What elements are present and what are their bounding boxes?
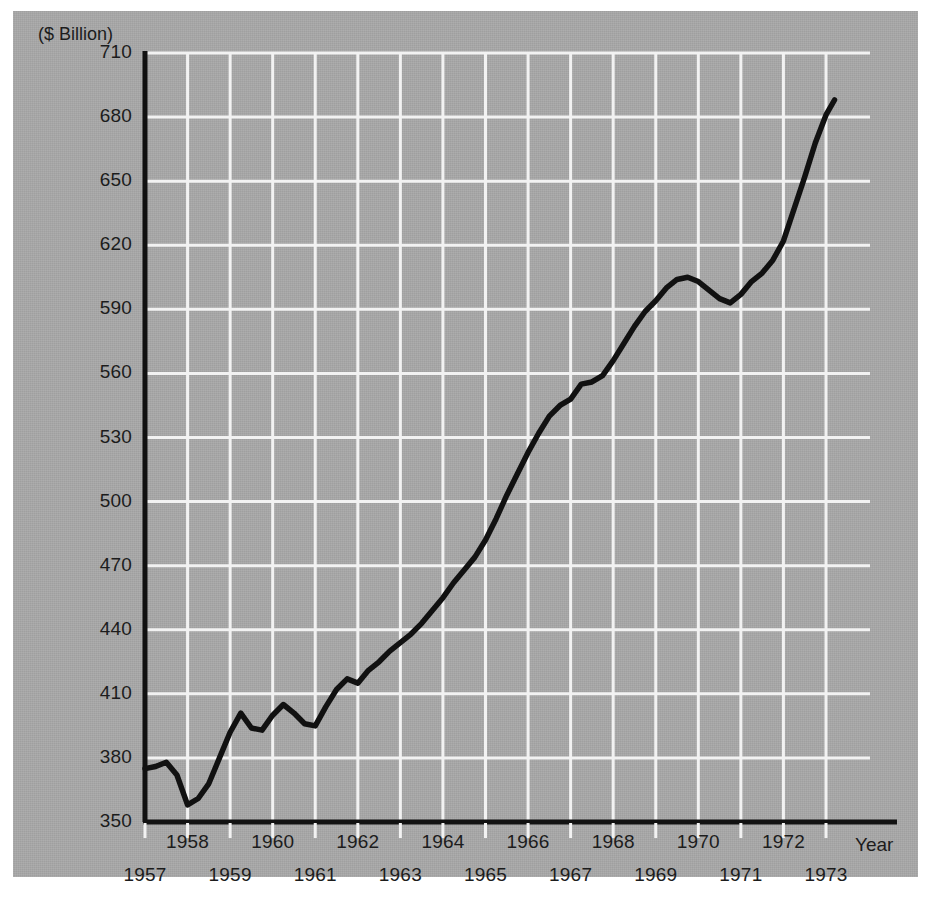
x-axis-tick-label: 1963 — [365, 864, 435, 886]
y-axis-tick-label: 680 — [62, 105, 132, 127]
x-axis-tick-label: 1971 — [706, 864, 776, 886]
chart-figure: ($ Billion) 3503804104404705005305605906… — [0, 0, 931, 898]
chart-plot-svg — [0, 0, 931, 898]
y-axis-tick-label: 500 — [62, 490, 132, 512]
x-axis-tick-label: 1967 — [536, 864, 606, 886]
x-axis-tick-label: 1962 — [323, 831, 393, 853]
x-axis-tick-label: 1966 — [493, 831, 563, 853]
x-axis-tick-label: 1972 — [748, 831, 818, 853]
y-axis-tick-label: 650 — [62, 169, 132, 191]
data-series-line — [145, 100, 835, 805]
y-axis-tick-label: 410 — [62, 682, 132, 704]
x-axis-tick-label: 1970 — [663, 831, 733, 853]
x-axis-title: Year — [855, 834, 893, 856]
x-axis-tick-label: 1964 — [408, 831, 478, 853]
y-axis-tick-label: 590 — [62, 297, 132, 319]
y-axis-tick-label: 350 — [62, 810, 132, 832]
x-axis-tick-label: 1957 — [110, 864, 180, 886]
y-axis-tick-label: 440 — [62, 618, 132, 640]
y-axis-tick-label: 380 — [62, 746, 132, 768]
x-axis-tick-label: 1973 — [791, 864, 861, 886]
x-axis-tick-label: 1958 — [153, 831, 223, 853]
x-axis-tick-label: 1968 — [578, 831, 648, 853]
x-axis-tick-label: 1960 — [238, 831, 308, 853]
y-axis-tick-label: 530 — [62, 426, 132, 448]
x-axis-tick-label: 1965 — [451, 864, 521, 886]
y-axis-tick-label: 710 — [62, 41, 132, 63]
y-axis-tick-label: 620 — [62, 233, 132, 255]
y-axis-tick-label: 560 — [62, 361, 132, 383]
gridlines-group — [145, 53, 870, 822]
x-axis-tick-label: 1961 — [280, 864, 350, 886]
x-axis-tick-label: 1969 — [621, 864, 691, 886]
x-axis-tick-label: 1959 — [195, 864, 265, 886]
y-axis-tick-label: 470 — [62, 554, 132, 576]
